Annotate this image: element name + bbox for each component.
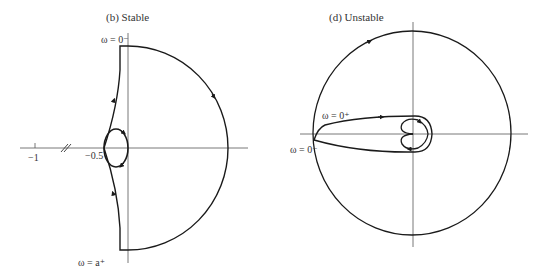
panel-b-title: (b) Stable [106, 11, 149, 24]
label-omega-0minus: ω = 0⁻ [290, 144, 318, 155]
label-omega-0plus: ω = 0⁺ [322, 110, 350, 121]
nyquist-curve-upper [104, 46, 128, 148]
nyquist-curve-outer-circle [313, 31, 511, 235]
nyquist-inner-loop-upper [401, 119, 428, 134]
panel-d-title: (d) Unstable [329, 11, 384, 24]
label-omega-0minus: ω = 0⁻ [101, 34, 129, 45]
panel-b-stable: (b) Stable −1 −0.5 ω = 0⁻ ω = a⁺ [20, 11, 248, 268]
label-omega-aplus: ω = a⁺ [78, 257, 105, 268]
nyquist-curve-lower [104, 148, 128, 250]
nyquist-diagrams: (b) Stable −1 −0.5 ω = 0⁻ ω = a⁺ (d) Uns… [0, 0, 547, 272]
tick-label-minus05: −0.5 [85, 150, 103, 161]
panel-d-unstable: (d) Unstable ω = 0⁺ ω = 0⁻ [290, 11, 528, 247]
tick-label-minus1: −1 [28, 152, 39, 163]
nyquist-inner-loop-lower [401, 134, 428, 149]
